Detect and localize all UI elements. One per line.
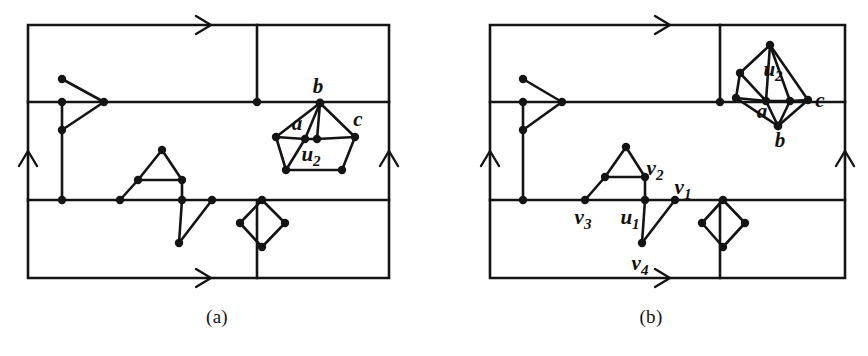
vertex-dot [58,126,66,134]
label-a-a: a [292,111,303,135]
vertex-dot [281,219,289,227]
vertex-dot-u1 [641,196,649,204]
label-c-a: c [353,107,363,131]
vertex-dot [736,69,744,77]
vertex-dot [175,239,183,247]
vertex-dot [282,166,290,174]
label-c-b: c [815,88,825,112]
vertex-dot [58,75,66,83]
vertex-dot [158,146,166,154]
figure-root: b a c u2 (a) [0,0,868,356]
vertex-dot [519,196,527,204]
vertex-dot [253,98,261,106]
edge-v-triangle-b [605,147,645,177]
edge-diamond-a [240,200,285,247]
panel-b-drawing: u2 c a b v2 v1 v3 u1 v4 [434,0,868,300]
vertex-dot [178,176,186,184]
edge-v2m-to-v3-b [585,177,605,200]
vertex-dot-c [804,96,812,104]
vertex-dot [208,196,216,204]
vertex-dot [58,196,66,204]
label-v1-b: v1 [675,175,692,202]
label-b-a: b [313,74,324,98]
edge-left-triangle-b [523,79,562,130]
vertex-dot [116,196,124,204]
label-u2-a: u2 [301,142,321,169]
vertex-dot [698,219,706,227]
vertex-dot [272,133,280,141]
panel-b: u2 c a b v2 v1 v3 u1 v4 (b) [434,0,868,356]
torus-frame-b [490,25,845,278]
edge-left-triangle-a [62,79,104,130]
vertex-dot [258,196,266,204]
vertex-dot [58,98,66,106]
vertex-dot [622,143,630,151]
vertex-dot [519,75,527,83]
vertex-dot [766,41,774,49]
torus-arrows-b [481,16,854,287]
torus-frame-a [28,25,389,278]
edge-mid-diag-a [179,200,212,243]
vertex-dot [258,243,266,251]
vertex-dot [236,219,244,227]
vertex-dot [100,98,108,106]
caption-b: (b) [434,306,868,328]
vertex-dot-v3 [581,196,589,204]
label-b-b: b [775,128,786,152]
vertex-dot-c [351,133,359,141]
vertex-dot [134,176,142,184]
vertex-dot [716,98,724,106]
edge-u1-to-v4-b [642,200,645,243]
vertex-dot [741,219,749,227]
vertex-dot [719,196,727,204]
vertex-dot [519,98,527,106]
vertex-dot [338,166,346,174]
vertex-dot [178,196,186,204]
vertex-dot [719,243,727,251]
frame-rect-a [28,25,389,278]
edge-mid-down-stem-a [179,200,182,243]
label-u1-b: u1 [620,205,639,232]
vertex-dot [519,126,527,134]
edge-v4-to-v1-b [642,200,675,243]
edge-mid-triangle-a [138,150,182,180]
vertex-dot-v4 [638,239,646,247]
vertex-dot-b [316,99,325,108]
panel-a: b a c u2 (a) [0,0,434,356]
vertex-dot [558,98,566,106]
caption-a: (a) [0,306,434,328]
label-a-b: a [757,99,768,123]
label-v4-b: v4 [632,251,649,278]
label-v2-b: v2 [647,156,664,183]
graph-labels-a: b a c u2 [292,74,364,169]
vertex-dot-u2 [786,97,794,105]
vertex-dot [601,173,609,181]
frame-rect-b [490,25,845,278]
vertex-dot [732,94,740,102]
vertex-dot-u2 [313,135,321,143]
edge-diamond-b [702,200,745,247]
panel-a-drawing: b a c u2 [0,0,434,300]
torus-arrows-a [19,16,398,287]
label-v3-b: v3 [575,205,592,232]
